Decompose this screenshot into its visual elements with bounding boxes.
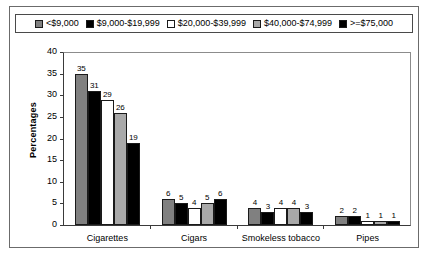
y-axis-tick-label: 5 bbox=[52, 197, 57, 207]
y-axis-title: Percentages bbox=[28, 85, 38, 175]
legend-item[interactable]: $40,000-$74,999 bbox=[253, 19, 332, 28]
x-axis-group-tick bbox=[237, 225, 238, 229]
bar-slot: 1 bbox=[374, 52, 387, 225]
legend-item-label: >=$75,000 bbox=[350, 19, 393, 28]
y-axis-tick-mark bbox=[60, 225, 64, 226]
bar-slot: 4 bbox=[188, 52, 201, 225]
bar[interactable] bbox=[127, 143, 140, 225]
legend-item[interactable]: $20,000-$39,999 bbox=[167, 19, 246, 28]
bar[interactable] bbox=[387, 221, 400, 225]
bar-value-label: 35 bbox=[77, 64, 86, 73]
y-axis-tick-label: 40 bbox=[47, 46, 57, 56]
legend-swatch-icon bbox=[35, 20, 43, 28]
bar[interactable] bbox=[248, 208, 261, 225]
bar[interactable] bbox=[201, 203, 214, 225]
bar-group: 65456Cigars bbox=[151, 52, 238, 225]
bar-value-label: 6 bbox=[166, 189, 170, 198]
y-axis-tick-label: 0 bbox=[52, 219, 57, 229]
chart-legend: <$9,000$9,000-$19,999$20,000-$39,999$40,… bbox=[15, 14, 413, 33]
bar-value-label: 1 bbox=[378, 211, 382, 220]
bar[interactable] bbox=[287, 208, 300, 225]
chart-figure: <$9,000$9,000-$19,999$20,000-$39,999$40,… bbox=[9, 6, 419, 248]
bar[interactable] bbox=[101, 100, 114, 225]
bar-slot: 1 bbox=[387, 52, 400, 225]
x-axis-group-tick bbox=[150, 225, 151, 229]
bar-group: 3531292619Cigarettes bbox=[64, 52, 151, 225]
bar[interactable] bbox=[75, 74, 88, 225]
bar-slot: 6 bbox=[162, 52, 175, 225]
legend-item[interactable]: >=$75,000 bbox=[339, 19, 393, 28]
y-axis-tick-label: 30 bbox=[47, 89, 57, 99]
bar[interactable] bbox=[374, 221, 387, 225]
bar-slot: 1 bbox=[361, 52, 374, 225]
bar[interactable] bbox=[361, 221, 374, 225]
legend-item-label: $9,000-$19,999 bbox=[97, 19, 160, 28]
bar-slot: 5 bbox=[201, 52, 214, 225]
bar-slot: 4 bbox=[274, 52, 287, 225]
bar-value-label: 3 bbox=[305, 202, 309, 211]
bar-value-label: 4 bbox=[279, 198, 283, 207]
bar-slot: 4 bbox=[248, 52, 261, 225]
x-axis-group-tick bbox=[323, 225, 324, 229]
bar-value-label: 4 bbox=[192, 198, 196, 207]
bar-group: 43443Smokeless tobacco bbox=[238, 52, 325, 225]
legend-swatch-icon bbox=[253, 20, 261, 28]
bar-value-label: 5 bbox=[205, 193, 209, 202]
legend-item-label: $20,000-$39,999 bbox=[178, 19, 246, 28]
bar[interactable] bbox=[214, 199, 227, 225]
bar-value-label: 4 bbox=[292, 198, 296, 207]
bar-group: 22111Pipes bbox=[324, 52, 411, 225]
x-axis-category-label: Pipes bbox=[356, 233, 379, 243]
bar-slot: 5 bbox=[175, 52, 188, 225]
legend-item[interactable]: $9,000-$19,999 bbox=[86, 19, 160, 28]
bar-value-label: 5 bbox=[179, 193, 183, 202]
bar-slot: 31 bbox=[88, 52, 101, 225]
legend-swatch-icon bbox=[339, 20, 347, 28]
bar-value-label: 3 bbox=[266, 202, 270, 211]
bar-slot: 3 bbox=[300, 52, 313, 225]
bar[interactable] bbox=[88, 91, 101, 225]
bar-slot: 29 bbox=[101, 52, 114, 225]
bar[interactable] bbox=[300, 212, 313, 225]
bar-slot: 2 bbox=[348, 52, 361, 225]
y-axis-tick-label: 25 bbox=[47, 111, 57, 121]
y-axis-tick-label: 35 bbox=[47, 68, 57, 78]
plot-area: 0510152025303540 3531292619Cigarettes654… bbox=[63, 52, 411, 226]
bar-value-label: 1 bbox=[365, 211, 369, 220]
bar-slot: 35 bbox=[75, 52, 88, 225]
bar[interactable] bbox=[175, 203, 188, 225]
y-axis-tick-label: 10 bbox=[47, 176, 57, 186]
bar-value-label: 19 bbox=[129, 133, 138, 142]
y-axis-tick-label: 15 bbox=[47, 154, 57, 164]
bar[interactable] bbox=[188, 208, 201, 225]
bar-slot: 6 bbox=[214, 52, 227, 225]
bar-slot: 4 bbox=[287, 52, 300, 225]
bar-value-label: 6 bbox=[218, 189, 222, 198]
legend-item-label: <$9,000 bbox=[46, 19, 79, 28]
legend-swatch-icon bbox=[167, 20, 175, 28]
bar-value-label: 4 bbox=[253, 198, 257, 207]
bar-groups: 3531292619Cigarettes65456Cigars43443Smok… bbox=[64, 52, 411, 225]
bar-value-label: 29 bbox=[103, 90, 112, 99]
bar[interactable] bbox=[114, 113, 127, 225]
bar[interactable] bbox=[274, 208, 287, 225]
x-axis-category-label: Cigars bbox=[181, 233, 207, 243]
bar[interactable] bbox=[162, 199, 175, 225]
bar-slot: 2 bbox=[335, 52, 348, 225]
bar-value-label: 2 bbox=[352, 206, 356, 215]
legend-swatch-icon bbox=[86, 20, 94, 28]
bar-slot: 26 bbox=[114, 52, 127, 225]
x-axis-category-label: Smokeless tobacco bbox=[242, 233, 320, 243]
x-axis-category-label: Cigarettes bbox=[87, 233, 128, 243]
bar-value-label: 31 bbox=[90, 81, 99, 90]
y-axis-tick-label: 20 bbox=[47, 133, 57, 143]
legend-item[interactable]: <$9,000 bbox=[35, 19, 79, 28]
bar[interactable] bbox=[348, 216, 361, 225]
bar[interactable] bbox=[335, 216, 348, 225]
bar-slot: 3 bbox=[261, 52, 274, 225]
bar-slot: 19 bbox=[127, 52, 140, 225]
bar-value-label: 1 bbox=[391, 211, 395, 220]
bar-value-label: 26 bbox=[116, 103, 125, 112]
bar-value-label: 2 bbox=[339, 206, 343, 215]
bar[interactable] bbox=[261, 212, 274, 225]
